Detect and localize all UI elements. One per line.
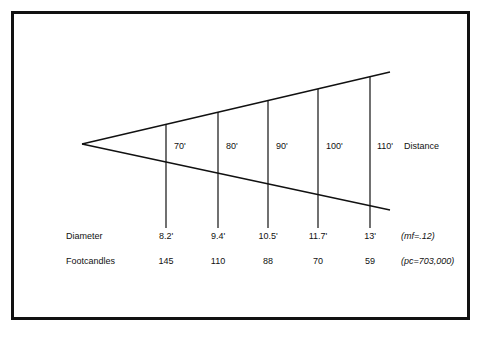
row-label-footcandles: Footcandles bbox=[66, 256, 115, 267]
footcandles-value-110: 59 bbox=[365, 256, 375, 267]
footcandles-value-80: 110 bbox=[211, 256, 225, 267]
beam-lower-edge bbox=[82, 144, 390, 210]
footcandles-value-100: 70 bbox=[313, 256, 323, 267]
distance-axis-title: Distance bbox=[404, 141, 439, 152]
footcandles-value-70: 145 bbox=[158, 256, 173, 267]
diameter-value-90: 10.5' bbox=[258, 231, 277, 242]
beam-upper-edge bbox=[82, 72, 390, 144]
beam-cone-graphic bbox=[0, 0, 481, 337]
distance-label-100: 100' bbox=[326, 141, 343, 152]
distance-label-80: 80' bbox=[226, 141, 238, 152]
diameter-value-70: 8.2' bbox=[159, 231, 173, 242]
distance-label-90: 90' bbox=[276, 141, 288, 152]
distance-label-110: 110' bbox=[377, 141, 393, 152]
row-label-diameter: Diameter bbox=[66, 231, 103, 242]
diameter-value-100: 11.7' bbox=[309, 231, 328, 242]
diameter-value-80: 9.4' bbox=[211, 231, 225, 242]
diameter-value-110: 13' bbox=[364, 231, 376, 242]
diagram-page: 70' 80' 90' 100' 110' Distance Diameter … bbox=[0, 0, 481, 337]
distance-label-70: 70' bbox=[174, 141, 186, 152]
note-maintenance-factor: (mf=.12) bbox=[401, 231, 435, 242]
footcandles-value-90: 88 bbox=[263, 256, 273, 267]
note-peak-candela: (pc=703,000) bbox=[401, 256, 454, 267]
